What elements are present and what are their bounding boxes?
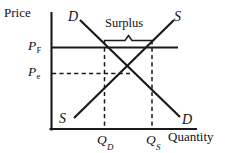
quantity-demanded-tick-label: QD — [97, 133, 113, 150]
supply-curve-label-top: S — [174, 10, 181, 24]
demand-curve-label-bottom: D — [182, 113, 192, 127]
price-floor-tick-label: PF — [28, 39, 41, 53]
supply-curve — [74, 20, 174, 118]
equilibrium-price-subscript: e — [37, 71, 41, 81]
price-floor-symbol: P — [28, 38, 36, 53]
x-axis-label: Quantity — [168, 130, 214, 143]
demand-curve — [80, 20, 180, 117]
equilibrium-price-tick-label: Pe — [28, 65, 40, 79]
surplus-brace — [105, 36, 153, 45]
demand-curve-label-top: D — [68, 10, 78, 24]
equilibrium-price-symbol: P — [28, 64, 36, 79]
quantity-demanded-symbol: Q — [97, 132, 107, 147]
supply-curve-label-bottom: S — [59, 112, 66, 126]
quantity-demanded-subscript: D — [107, 142, 114, 152]
quantity-supplied-tick-label: QS — [146, 133, 160, 150]
quantity-supplied-subscript: S — [156, 142, 161, 152]
supply-demand-diagram: Price Quantity Surplus PF Pe QD QS D D S… — [0, 0, 231, 153]
surplus-label: Surplus — [105, 17, 143, 30]
y-axis-label: Price — [4, 6, 31, 19]
price-floor-subscript: F — [37, 45, 42, 55]
quantity-supplied-symbol: Q — [146, 132, 156, 147]
